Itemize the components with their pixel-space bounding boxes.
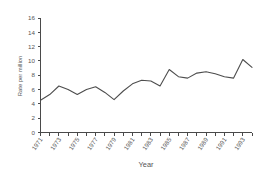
y-tick-label: 14	[28, 29, 35, 36]
x-tick-label: 1987	[177, 136, 191, 152]
y-tick-group: 0246810121416	[28, 14, 40, 136]
x-tick-label: 1977	[85, 136, 99, 152]
x-tick-label: 1973	[49, 136, 63, 152]
data-series-line	[41, 60, 253, 101]
y-tick-label: 6	[32, 86, 36, 93]
x-tick-label: 1981	[122, 136, 136, 152]
y-tick-label: 8	[32, 71, 36, 78]
x-tick-label: 1993	[232, 136, 246, 152]
y-tick-label: 10	[28, 57, 35, 64]
x-tick-label: 1983	[141, 136, 155, 152]
x-tick-label: 1989	[196, 136, 210, 152]
x-tick-label: 1971	[30, 136, 44, 152]
x-tick-label-group: 1971197319751977197919811983198519871989…	[30, 136, 246, 152]
chart-figure: 0246810121416 19711973197519771979198119…	[0, 0, 270, 178]
y-tick-label: 4	[32, 100, 36, 107]
y-tick-label: 12	[28, 43, 35, 50]
x-tick-label: 1985	[159, 136, 173, 152]
y-axis-title: Rate per million	[17, 56, 23, 96]
x-tick-label: 1991	[214, 136, 228, 152]
y-tick-label: 2	[32, 114, 36, 121]
x-axis-title: Year	[139, 160, 154, 169]
line-chart: 0246810121416 19711973197519771979198119…	[0, 0, 270, 178]
x-tick-label: 1979	[104, 136, 118, 152]
x-tick-label: 1975	[67, 136, 81, 152]
y-tick-label: 0	[32, 129, 36, 136]
y-tick-label: 16	[28, 14, 35, 21]
